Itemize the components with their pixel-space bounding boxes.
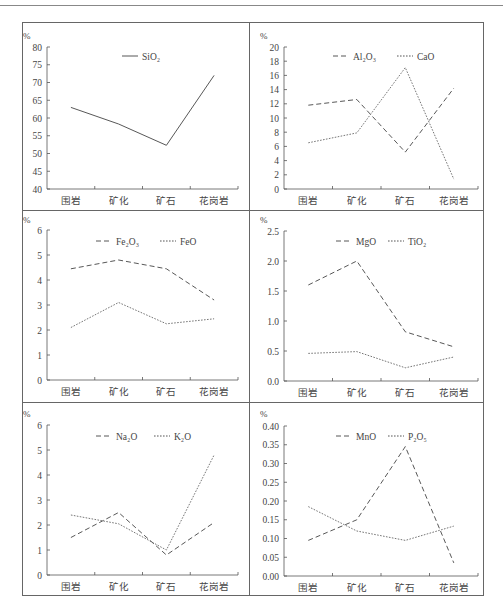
y-tick-label: 6 [37, 226, 42, 236]
series-line-0 [308, 261, 454, 347]
y-tick-label: 0.40 [262, 422, 279, 432]
x-tick-label: 花岗岩 [439, 195, 469, 206]
y-tick-label: 1.5 [267, 287, 279, 297]
x-tick-label: 矿化 [347, 582, 367, 593]
y-tick-label: 5 [37, 251, 42, 261]
chart-canvas: %404550556065707580围岩矿化矿石花岗岩SiO₂%0246810… [0, 0, 503, 615]
x-tick-label: 围岩 [61, 581, 81, 592]
y-tick-label: 6 [274, 142, 279, 152]
y-tick-label: 0.00 [262, 572, 279, 582]
y-tick-label: 14 [270, 85, 280, 95]
legend-label-0: Na₂O [116, 432, 137, 442]
y-axis-unit-label: % [23, 31, 31, 41]
y-tick-label: 50 [33, 149, 43, 159]
x-tick-label: 矿化 [109, 195, 129, 206]
legend-label-0: SiO₂ [142, 52, 160, 62]
legend-label-1: K₂O [174, 432, 191, 442]
x-tick-label: 花岗岩 [439, 582, 469, 593]
legend-label-1: FeO [180, 237, 197, 247]
y-tick-label: 12 [270, 99, 280, 109]
y-tick-label: 16 [270, 71, 280, 81]
x-tick-label: 矿石 [156, 195, 176, 206]
y-tick-label: 2.5 [267, 227, 279, 237]
x-tick-label: 矿石 [156, 581, 176, 592]
y-tick-label: 2.0 [267, 257, 279, 267]
x-tick-label: 围岩 [298, 195, 318, 206]
y-tick-label: 45 [33, 167, 43, 177]
legend-label-0: Fe₂O₃ [116, 237, 139, 247]
y-tick-label: 18 [270, 57, 280, 67]
y-tick-label: 1 [37, 546, 42, 556]
x-tick-label: 矿石 [156, 386, 176, 397]
series-line-0 [71, 260, 214, 300]
y-tick-label: 0.20 [262, 497, 279, 507]
y-tick-label: 40 [33, 185, 43, 195]
legend-label-1: P₂O₅ [408, 432, 427, 442]
x-tick-label: 花岗岩 [439, 387, 469, 398]
y-tick-label: 2 [274, 170, 279, 180]
chart-panel-4: %0.00.51.01.52.02.5围岩矿化矿石花岗岩MgOTiO₂ [260, 215, 478, 398]
y-tick-label: 6 [37, 421, 42, 431]
y-tick-label: 20 [270, 43, 280, 53]
x-tick-label: 花岗岩 [199, 581, 229, 592]
x-tick-label: 围岩 [298, 582, 318, 593]
series-line-1 [71, 303, 214, 328]
x-tick-label: 矿石 [395, 582, 415, 593]
legend-label-0: Al₂O₃ [353, 52, 376, 62]
y-tick-label: 2 [37, 521, 42, 531]
y-tick-label: 8 [274, 128, 279, 138]
x-tick-label: 围岩 [61, 195, 81, 206]
x-tick-label: 矿石 [395, 387, 415, 398]
y-tick-label: 0.15 [262, 515, 279, 525]
y-axis-unit-label: % [23, 215, 31, 225]
y-axis-unit-label: % [260, 31, 268, 41]
y-tick-label: 65 [33, 96, 43, 106]
x-tick-label: 矿化 [347, 195, 367, 206]
y-tick-label: 3 [37, 496, 42, 506]
x-tick-label: 矿化 [347, 387, 367, 398]
legend-label-0: MgO [356, 237, 376, 247]
chart-panel-1: %404550556065707580围岩矿化矿石花岗岩SiO₂ [23, 31, 238, 206]
y-tick-label: 10 [270, 114, 280, 124]
x-tick-label: 矿化 [109, 386, 129, 397]
y-axis-unit-label: % [260, 409, 268, 419]
series-line-0 [71, 75, 214, 145]
y-tick-label: 3 [37, 301, 42, 311]
chart-panel-6: %0.000.050.100.150.200.250.300.350.40围岩矿… [260, 409, 478, 593]
y-tick-label: 0.05 [262, 553, 279, 563]
legend-label-1: TiO₂ [408, 237, 426, 247]
x-tick-label: 花岗岩 [199, 195, 229, 206]
y-tick-label: 0.5 [267, 347, 279, 357]
chart-panel-5: %0123456围岩矿化矿石花岗岩Na₂OK₂O [23, 409, 238, 592]
y-tick-label: 4 [37, 471, 42, 481]
y-tick-label: 80 [33, 43, 43, 53]
y-tick-label: 0.10 [262, 534, 279, 544]
chart-panel-3: %0123456围岩矿化矿石花岗岩Fe₂O₃FeO [23, 215, 238, 397]
series-line-0 [308, 88, 454, 152]
legend-label-0: MnO [356, 432, 376, 442]
y-tick-label: 4 [274, 156, 279, 166]
y-tick-label: 0 [37, 571, 42, 581]
y-axis-unit-label: % [260, 215, 268, 225]
y-tick-label: 0.0 [267, 377, 279, 387]
y-tick-label: 0.30 [262, 459, 279, 469]
y-axis-unit-label: % [23, 409, 31, 419]
series-line-1 [308, 68, 454, 180]
y-tick-label: 55 [33, 131, 43, 141]
x-tick-label: 花岗岩 [199, 386, 229, 397]
y-tick-label: 60 [33, 114, 43, 124]
legend-label-1: CaO [417, 52, 435, 62]
x-tick-label: 围岩 [298, 387, 318, 398]
series-line-1 [71, 455, 214, 550]
x-tick-label: 围岩 [61, 386, 81, 397]
chart-panel-2: %02468101214161820围岩矿化矿石花岗岩Al₂O₃CaO [260, 31, 478, 206]
y-tick-label: 0.25 [262, 478, 279, 488]
y-tick-label: 1.0 [267, 317, 279, 327]
x-tick-label: 矿化 [109, 581, 129, 592]
y-tick-label: 1 [37, 351, 42, 361]
series-line-1 [308, 352, 454, 368]
y-tick-label: 70 [33, 78, 43, 88]
y-tick-label: 75 [33, 60, 43, 70]
series-line-0 [308, 447, 454, 563]
y-tick-label: 2 [37, 326, 42, 336]
